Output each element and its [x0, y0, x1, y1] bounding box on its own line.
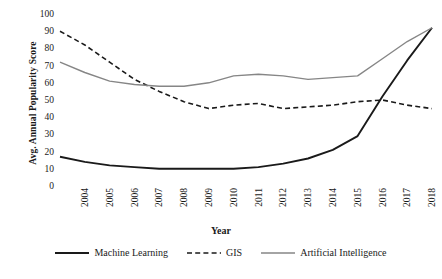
x-tick-label: 2004	[80, 188, 90, 228]
x-tick-label: 2014	[328, 188, 338, 228]
x-tick-label: 2012	[278, 188, 288, 228]
legend-item[interactable]: Machine Learning	[55, 247, 168, 258]
series-line	[60, 28, 432, 86]
chart-legend: Machine LearningGISArtificial Intelligen…	[0, 247, 442, 258]
y-tick-label: 80	[22, 44, 54, 53]
x-tick-label: 2013	[303, 188, 313, 228]
legend-label: GIS	[226, 247, 242, 258]
legend-swatch-icon	[261, 249, 295, 257]
x-tick-label: 2010	[229, 188, 239, 228]
x-tick-label: 2017	[402, 188, 412, 228]
series-line	[60, 31, 432, 108]
y-tick-label: 50	[22, 96, 54, 105]
legend-label: Machine Learning	[94, 247, 168, 258]
legend-item[interactable]: Artificial Intelligence	[261, 247, 386, 258]
plot-area	[60, 14, 432, 186]
y-tick-label: 10	[22, 164, 54, 173]
y-tick-label: 60	[22, 78, 54, 87]
chart-figure: Avg. Annual Popularity Score 01020304050…	[0, 0, 442, 279]
x-tick-label: 2011	[254, 188, 264, 228]
x-tick-label: 2009	[204, 188, 214, 228]
y-tick-label: 90	[22, 27, 54, 36]
x-tick-label: 2016	[378, 188, 388, 228]
x-tick-label: 2005	[105, 188, 115, 228]
y-tick-label: 20	[22, 147, 54, 156]
y-axis-tick-labels: 0102030405060708090100	[22, 14, 54, 186]
x-axis-tick-labels: 2004200520062007200820092010201120122013…	[60, 188, 432, 230]
legend-swatch-icon	[187, 249, 221, 257]
series-line	[60, 28, 432, 169]
x-tick-label: 2015	[353, 188, 363, 228]
series-canvas	[60, 14, 432, 186]
y-tick-label: 30	[22, 130, 54, 139]
legend-label: Artificial Intelligence	[300, 247, 386, 258]
x-tick-label: 2006	[130, 188, 140, 228]
x-axis-title: Year	[0, 225, 442, 236]
x-tick-label: 2008	[179, 188, 189, 228]
x-tick-label: 2007	[154, 188, 164, 228]
legend-item[interactable]: GIS	[187, 247, 242, 258]
y-tick-label: 0	[22, 182, 54, 191]
y-tick-label: 70	[22, 61, 54, 70]
y-tick-label: 40	[22, 113, 54, 122]
y-tick-label: 100	[22, 10, 54, 19]
legend-swatch-icon	[55, 249, 89, 257]
x-tick-label: 2018	[427, 188, 437, 228]
